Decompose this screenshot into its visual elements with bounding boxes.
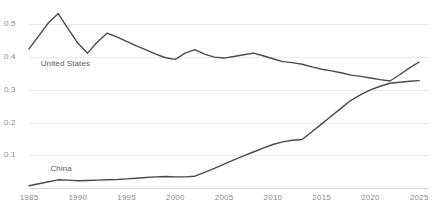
y-tick-label: 0.2 xyxy=(4,118,16,128)
x-tick-label: 2000 xyxy=(166,193,185,203)
y-tick-label: 0.1 xyxy=(4,150,16,160)
series-lines xyxy=(29,14,419,186)
series-line-united-states xyxy=(29,14,419,81)
x-tick-label: 1995 xyxy=(117,193,136,203)
line-chart: 0.10.20.30.40.5 198519901995200020052010… xyxy=(0,0,434,216)
series-line-china xyxy=(29,81,419,186)
x-tick-label: 1985 xyxy=(20,193,39,203)
y-tick-label: 0.3 xyxy=(4,85,16,95)
x-tick-label: 2010 xyxy=(264,193,283,203)
x-tick-label: 2025 xyxy=(410,193,429,203)
y-tick-label: 0.5 xyxy=(4,19,16,29)
x-tick-label: 2015 xyxy=(312,193,331,203)
series-label-china: China xyxy=(50,164,71,174)
y-tick-label: 0.4 xyxy=(4,52,16,62)
chart-canvas xyxy=(0,0,434,216)
x-tick-label: 2020 xyxy=(361,193,380,203)
x-tick-label: 2005 xyxy=(215,193,234,203)
x-tick-label: 1990 xyxy=(68,193,87,203)
series-label-united-states: United States xyxy=(41,59,90,69)
